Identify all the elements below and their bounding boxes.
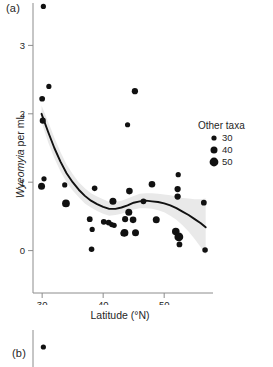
axes-group: 0123 304050: [20, 3, 213, 305]
legend-entry-label: 40: [222, 144, 233, 155]
scatter-point: [177, 242, 183, 248]
panel-b-points-group: [41, 344, 46, 349]
legend-title: Other taxa: [198, 120, 245, 131]
scatter-point: [141, 198, 147, 204]
scatter-point: [90, 227, 95, 232]
panel-b-point: [41, 344, 46, 349]
y-axis-title-suffix: per mL: [14, 114, 26, 150]
scatter-point: [41, 176, 46, 181]
x-tick-label: 50: [159, 299, 170, 305]
scatter-point: [132, 88, 138, 94]
y-tick-label: 0: [20, 245, 25, 256]
y-axis-title: Wyeomyia per mL: [14, 86, 26, 226]
legend-entry-label: 50: [222, 156, 233, 167]
scatter-point: [202, 247, 208, 253]
scatter-point: [46, 84, 51, 89]
y-tick-label: 3: [20, 40, 25, 51]
scatter-point: [40, 118, 46, 124]
x-axis-title: Latitude (°N): [40, 309, 200, 321]
x-axis-ticks: 304050: [37, 293, 170, 305]
scatter-point: [62, 200, 70, 208]
scatter-point: [130, 216, 137, 223]
scatter-point: [109, 198, 116, 205]
scatter-point: [201, 200, 207, 206]
scatter-point: [125, 122, 130, 127]
scatter-point: [39, 96, 45, 102]
scatter-point: [126, 188, 133, 195]
scatter-point: [174, 233, 183, 242]
figure-container: (a) 0123 304050 Latitude (°N) Wyeomyia p…: [0, 0, 273, 367]
y-axis-title-genus: Wyeomyia: [14, 149, 26, 198]
scatter-point: [120, 231, 126, 237]
scatter-point: [92, 186, 98, 192]
scatter-point: [176, 172, 181, 177]
scatter-point: [174, 193, 180, 199]
scatter-point: [87, 216, 93, 222]
scatter-point: [112, 223, 117, 228]
scatter-point: [101, 219, 107, 225]
scatter-point: [149, 181, 156, 188]
x-tick-label: 30: [37, 299, 48, 305]
scatter-point: [122, 216, 128, 222]
scatter-point: [62, 182, 67, 187]
legend-entry-label: 30: [222, 132, 233, 143]
scatter-point: [125, 209, 132, 216]
x-tick-label: 40: [98, 299, 109, 305]
scatter-point: [89, 246, 95, 252]
scatter-point: [38, 183, 45, 190]
scatter-point: [132, 229, 139, 236]
scatter-point: [41, 4, 46, 9]
panel-b-plot: [0, 327, 273, 367]
scatter-point: [153, 216, 160, 223]
scatter-point: [174, 186, 180, 192]
